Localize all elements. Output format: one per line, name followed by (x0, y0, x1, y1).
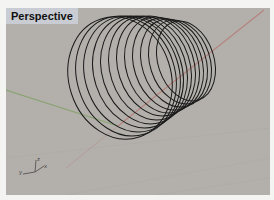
widget-y-icon (23, 172, 35, 174)
helix-curve (52, 8, 225, 153)
widget-x-label: x (44, 163, 47, 169)
widget-z-label: z (37, 156, 40, 162)
x-axis-neg (66, 126, 118, 168)
perspective-viewport[interactable]: Perspective (6, 8, 270, 195)
widget-y-label: y (19, 169, 22, 175)
axis-orientation-widget: z y x (11, 154, 51, 184)
y-axis-line (6, 90, 118, 126)
